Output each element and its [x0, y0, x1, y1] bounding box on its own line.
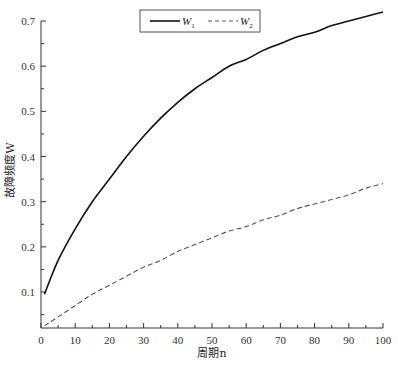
y-tick-label: 0.3: [21, 196, 35, 208]
x-tick-label: 40: [172, 334, 184, 346]
x-tick-label: 70: [275, 334, 287, 346]
x-tick-label: 90: [343, 334, 355, 346]
y-tick-label: 0.7: [21, 15, 35, 27]
y-axis-label: 故障频度W: [3, 142, 17, 198]
x-tick-label: 0: [38, 334, 44, 346]
x-tick-label: 30: [138, 334, 150, 346]
x-tick-label: 50: [207, 334, 219, 346]
legend: W1W2: [140, 10, 260, 32]
axes: 0.10.20.30.40.50.60.70102030405060708090…: [21, 15, 392, 346]
x-tick-label: 20: [104, 334, 116, 346]
x-tick-label: 10: [70, 334, 82, 346]
series-line-w1: [44, 12, 383, 294]
x-tick-label: 100: [375, 334, 392, 346]
x-tick-label: 80: [309, 334, 321, 346]
y-tick-label: 0.4: [21, 151, 35, 163]
y-tick-label: 0.2: [21, 241, 35, 253]
series-lines: [44, 12, 383, 326]
y-tick-label: 0.6: [21, 60, 35, 72]
series-line-w2: [44, 184, 383, 326]
x-axis-label: 周期n: [197, 347, 226, 360]
x-tick-label: 60: [241, 334, 253, 346]
y-tick-label: 0.1: [21, 286, 35, 298]
y-tick-label: 0.5: [21, 105, 35, 117]
line-chart: 0.10.20.30.40.50.60.70102030405060708090…: [0, 0, 398, 369]
